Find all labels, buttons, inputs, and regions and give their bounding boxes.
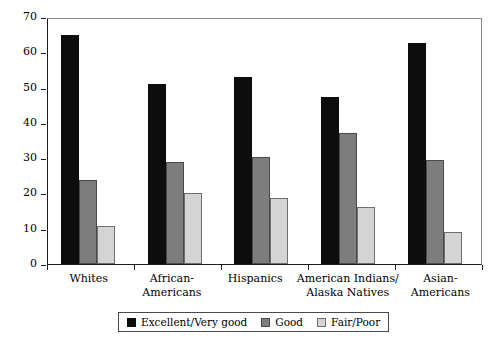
y-axis-tick-mark — [41, 18, 46, 19]
x-axis-tick-mark — [134, 265, 135, 270]
bar — [408, 43, 426, 264]
bar-chart-figure: Percentage of respondents 01020304050607… — [0, 0, 489, 339]
y-axis-tick-label: 40 — [23, 116, 37, 129]
y-axis-tick-mark — [41, 230, 46, 231]
bar-group — [394, 19, 481, 264]
bar-group-bars — [148, 19, 202, 264]
bar — [444, 232, 462, 264]
x-axis-labels: WhitesAfrican-AmericansHispanicsAmerican… — [47, 272, 482, 299]
legend-label: Excellent/Very good — [141, 316, 247, 328]
bar — [97, 226, 115, 264]
y-axis-tick-label: 10 — [23, 222, 37, 235]
y-axis-tick-mark — [41, 124, 46, 125]
legend-swatch — [261, 318, 270, 327]
legend-item: Good — [261, 316, 303, 328]
bar — [79, 180, 97, 264]
legend-label: Good — [275, 316, 303, 328]
bar — [321, 97, 339, 264]
y-axis-tick-label: 60 — [23, 45, 37, 58]
bar-group-bars — [408, 19, 462, 264]
bar-groups — [48, 19, 481, 264]
x-axis-tick-mark — [221, 265, 222, 270]
y-axis-tick-mark — [41, 265, 46, 266]
legend-item: Excellent/Very good — [127, 316, 247, 328]
x-axis-category-label: American Indians/Alaska Natives — [297, 272, 399, 299]
legend-item: Fair/Poor — [317, 316, 380, 328]
y-axis-tick-label: 20 — [23, 186, 37, 199]
bar — [166, 162, 184, 264]
y-axis-tick-label: 30 — [23, 151, 37, 164]
legend-swatch — [317, 318, 326, 327]
bar — [184, 193, 202, 264]
bar — [252, 157, 270, 264]
bar — [357, 207, 375, 264]
y-axis-tick-mark — [41, 194, 46, 195]
y-axis-tick-label: 70 — [23, 10, 37, 23]
bar — [270, 198, 288, 264]
bar — [234, 77, 252, 264]
x-axis-category-label: Asian-Americans — [399, 272, 482, 299]
y-axis-tick-mark — [41, 89, 46, 90]
x-axis-tick-mark — [482, 265, 483, 270]
x-axis-category-label: Hispanics — [214, 272, 297, 299]
y-axis-tick-label: 0 — [30, 257, 37, 270]
legend-label: Fair/Poor — [331, 316, 380, 328]
legend-swatch — [127, 318, 136, 327]
x-axis-tick-mark — [395, 265, 396, 270]
bar — [426, 160, 444, 264]
bar — [148, 84, 166, 264]
y-axis-tick-label: 50 — [23, 81, 37, 94]
bar-group — [135, 19, 222, 264]
bar-group — [221, 19, 308, 264]
x-axis-tick-mark — [47, 265, 48, 270]
bar-group — [48, 19, 135, 264]
bar — [339, 133, 357, 264]
bar-group — [308, 19, 395, 264]
bar — [61, 35, 79, 264]
x-axis-category-label: Whites — [47, 272, 130, 299]
chart-legend: Excellent/Very goodGoodFair/Poor — [118, 312, 389, 332]
y-axis-tick-mark — [41, 53, 46, 54]
x-axis-category-label: African-Americans — [130, 272, 213, 299]
bar-group-bars — [321, 19, 375, 264]
plot-area — [47, 18, 482, 265]
y-axis-tick-mark — [41, 159, 46, 160]
x-axis-tick-mark — [308, 265, 309, 270]
bar-group-bars — [61, 19, 115, 264]
bar-group-bars — [234, 19, 288, 264]
